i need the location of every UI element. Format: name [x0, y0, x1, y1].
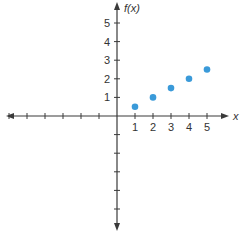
data-point	[168, 85, 175, 92]
x-axis-right-arrow-icon	[221, 113, 229, 119]
x-tick-label: 5	[204, 121, 210, 133]
x-tick-label: 4	[186, 121, 192, 133]
data-points	[132, 66, 211, 110]
y-axis-label: f(x)	[124, 2, 140, 14]
data-point	[186, 76, 193, 83]
x-axis-left-arrow-icon	[6, 113, 14, 119]
x-tick-labels: 12345	[132, 121, 210, 133]
y-tick-label: 3	[104, 54, 110, 66]
y-tick-labels: 12345	[104, 17, 110, 103]
y-tick-label: 2	[104, 73, 110, 85]
y-axis-down-arrow-icon	[114, 223, 120, 231]
y-tick-label: 4	[104, 36, 110, 48]
data-point	[204, 66, 211, 73]
y-tick-label: 5	[104, 17, 110, 29]
data-point	[150, 94, 157, 101]
y-tick-label: 1	[104, 91, 110, 103]
x-axis-label: x	[232, 110, 239, 122]
x-tick-label: 3	[168, 121, 174, 133]
data-point	[132, 103, 139, 110]
x-tick-label: 1	[132, 121, 138, 133]
x-tick-label: 2	[150, 121, 156, 133]
coordinate-plane: 12345 12345 x f(x)	[0, 0, 241, 236]
y-axis-up-arrow-icon	[114, 2, 120, 10]
